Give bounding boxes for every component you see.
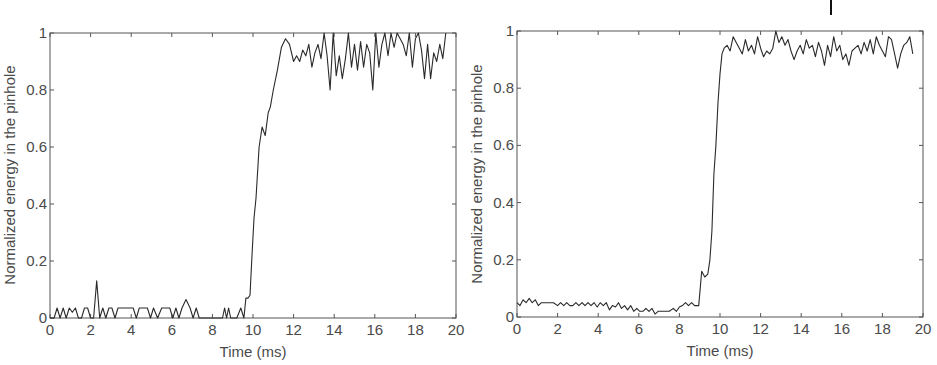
y-tick-label: 0.4	[26, 195, 47, 212]
x-tick-label: 12	[752, 320, 769, 337]
x-tick-label: 20	[448, 321, 465, 338]
x-tick-label: 8	[208, 321, 216, 338]
figure-canvas: 02468101214161820 00.20.40.60.81 Time (m…	[0, 0, 937, 365]
x-tick-label: 16	[833, 320, 850, 337]
x-tick-label: 2	[86, 321, 94, 338]
y-tick-label: 0	[506, 308, 514, 325]
x-tick-label: 10	[245, 321, 262, 338]
left-y-axis-label: Normalized energy in the pinhole	[1, 65, 18, 284]
right-chart: 02468101214161820 00.20.40.60.81 Time (m…	[468, 22, 931, 359]
right-series-line	[517, 31, 913, 314]
x-tick-label: 18	[874, 320, 891, 337]
y-tick-label: 0	[39, 309, 47, 326]
y-tick-label: 0.4	[493, 194, 514, 211]
x-tick-label: 20	[915, 320, 932, 337]
right-x-axis-label: Time (ms)	[687, 342, 754, 359]
y-tick-label: 1	[506, 22, 514, 39]
x-tick-label: 6	[635, 320, 643, 337]
x-tick-label: 14	[326, 321, 343, 338]
right-x-ticks: 02468101214161820	[513, 31, 932, 337]
left-plot-frame	[50, 33, 456, 318]
x-tick-label: 10	[712, 320, 729, 337]
x-tick-label: 8	[675, 320, 683, 337]
x-tick-label: 14	[793, 320, 810, 337]
x-tick-label: 4	[594, 320, 602, 337]
x-tick-label: 16	[366, 321, 383, 338]
y-tick-label: 0.2	[26, 252, 47, 269]
x-tick-label: 12	[285, 321, 302, 338]
x-tick-label: 2	[553, 320, 561, 337]
left-x-axis-label: Time (ms)	[220, 343, 287, 360]
left-y-ticks: 00.20.40.60.81	[26, 24, 456, 326]
left-series-line	[50, 33, 446, 318]
y-tick-label: 0.8	[493, 79, 514, 96]
y-tick-label: 0.2	[493, 251, 514, 268]
right-y-ticks: 00.20.40.60.81	[493, 22, 923, 325]
x-tick-label: 4	[127, 321, 135, 338]
y-tick-label: 1	[39, 24, 47, 41]
right-y-axis-label: Normalized energy in the pinhole	[468, 64, 485, 283]
x-tick-label: 0	[46, 321, 54, 338]
left-x-ticks: 02468101214161820	[46, 33, 465, 338]
y-tick-label: 0.6	[26, 138, 47, 155]
y-tick-label: 0.8	[26, 81, 47, 98]
x-tick-label: 18	[407, 321, 424, 338]
x-tick-label: 6	[168, 321, 176, 338]
left-chart: 02468101214161820 00.20.40.60.81 Time (m…	[1, 24, 464, 360]
y-tick-label: 0.6	[493, 136, 514, 153]
x-tick-label: 0	[513, 320, 521, 337]
